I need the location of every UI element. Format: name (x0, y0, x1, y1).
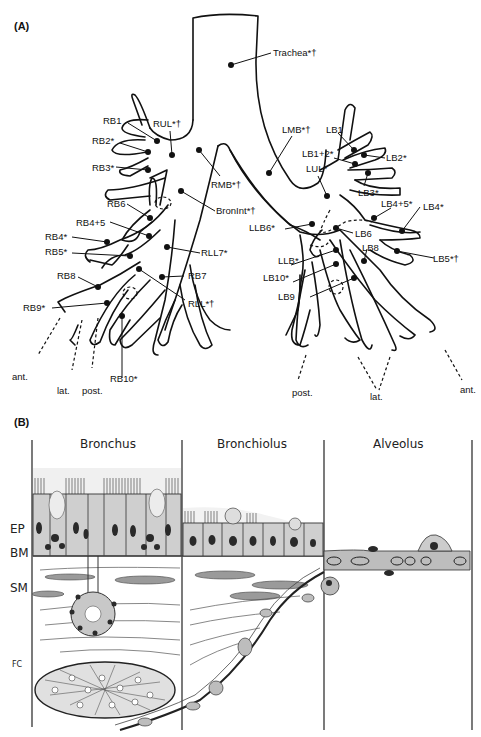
histology-illustration (32, 468, 470, 730)
label-rb5: RB5* (45, 246, 67, 257)
column-alveolus: Alveolus (373, 437, 424, 451)
label-lb3: LB3* (358, 187, 379, 198)
label-rll: RLL*† (188, 298, 214, 309)
label-rb3: RB3* (92, 162, 114, 173)
label-rb2: RB2* (92, 135, 114, 146)
label-llb6: LLB6* (249, 222, 275, 233)
label-rb7: RB7 (188, 270, 206, 281)
label-lb1: LB1 (326, 124, 343, 135)
layer-fc: FC (12, 660, 23, 669)
layer-ep: EP (10, 522, 25, 536)
label-lb8: LB8 (362, 242, 379, 253)
column-bronchiolus: Bronchiolus (217, 437, 287, 451)
label-left-ant: ant. (460, 384, 476, 395)
layer-sm: SM (10, 581, 28, 595)
label-rb45: RB4+5 (76, 217, 105, 228)
label-rb4: RB4* (45, 231, 67, 242)
layer-bm: BM (10, 546, 29, 560)
label-rb1: RB1 (103, 115, 121, 126)
label-left-lat: lat. (370, 391, 383, 402)
panel-b-label: (B) (14, 416, 30, 428)
label-lmb: LMB*† (282, 124, 311, 135)
label-lb10: LB10* (263, 272, 289, 283)
label-lb45: LB4+5* (381, 198, 413, 209)
label-lul: LUL* (306, 163, 327, 174)
label-trachea: Trachea*† (273, 47, 316, 58)
label-rb8: RB8 (57, 270, 75, 281)
label-rmb: RMB*† (211, 179, 241, 190)
label-right-ant: ant. (12, 371, 28, 382)
label-rb6: RB6 (107, 198, 125, 209)
column-bronchus: Bronchus (80, 437, 136, 451)
panel-a-label: (A) (14, 20, 30, 32)
label-lb6: LB6 (355, 228, 372, 239)
label-llb: LLB* (278, 255, 299, 266)
label-rb9: RB9* (23, 302, 45, 313)
label-bronint: BronInt*† (216, 205, 256, 216)
label-lb12: LB1+2* (302, 148, 334, 159)
label-left-post: post. (292, 387, 313, 398)
label-right-post: post. (82, 385, 103, 396)
label-right-lat: lat. (57, 385, 70, 396)
label-lb5: LB5*† (433, 253, 459, 264)
label-lb4: LB4* (423, 201, 444, 212)
label-rul: RUL*† (153, 118, 181, 129)
label-rll7: RLL7* (201, 247, 228, 258)
label-lb2: LB2* (386, 152, 407, 163)
airway-figure: (A) (0, 0, 481, 737)
label-rb10: RB10* (110, 373, 138, 384)
label-lb9: LB9 (278, 291, 295, 302)
